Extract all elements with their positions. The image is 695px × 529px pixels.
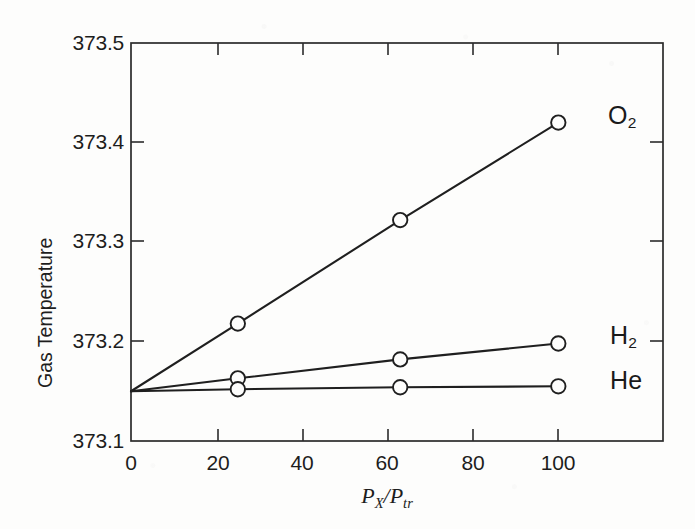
data-point-marker: [393, 352, 407, 366]
series-line-he: [131, 386, 558, 391]
gas-temperature-chart-figure: 373.5 373.4 373.3 373.2 373.1 0 20 40 60…: [0, 0, 695, 529]
data-point-marker: [393, 380, 407, 394]
data-point-marker: [551, 336, 565, 350]
series-layer: [131, 115, 566, 396]
data-point-marker: [551, 115, 565, 129]
y-axis-ticks-right: [650, 142, 663, 341]
data-point-marker: [393, 213, 407, 227]
series-he: [131, 379, 566, 396]
plot-canvas: [0, 0, 695, 529]
data-point-marker: [551, 379, 565, 393]
x-axis-ticks-top: [218, 43, 558, 55]
x-axis-ticks-bottom: [218, 429, 558, 441]
data-point-marker: [231, 382, 245, 396]
y-axis-ticks-left: [131, 142, 144, 341]
series-h2: [131, 336, 566, 391]
data-point-marker: [231, 316, 245, 330]
